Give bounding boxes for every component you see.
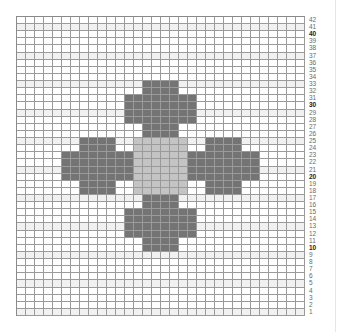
chart-cell	[26, 117, 35, 124]
chart-cell	[35, 280, 44, 287]
chart-cell	[170, 110, 179, 117]
chart-cell	[197, 38, 206, 45]
row-number-labels: 4241403938373635343332313029282726252423…	[309, 16, 333, 315]
chart-cell	[242, 302, 251, 309]
chart-cell	[89, 124, 98, 131]
chart-cell	[224, 67, 233, 74]
chart-cell	[224, 110, 233, 117]
chart-cell	[251, 216, 260, 223]
chart-cell	[98, 53, 107, 60]
chart-cell	[224, 174, 233, 181]
chart-cell	[17, 102, 26, 109]
chart-cell	[125, 74, 134, 81]
chart-cell	[269, 145, 278, 152]
chart-cell	[260, 209, 269, 216]
chart-cell	[125, 288, 134, 295]
chart-cell	[107, 302, 116, 309]
chart-cell	[134, 288, 143, 295]
chart-cell	[26, 259, 35, 266]
chart-cell	[170, 145, 179, 152]
chart-cell	[35, 17, 44, 24]
chart-cell	[26, 24, 35, 31]
chart-cell	[152, 273, 161, 280]
chart-cell	[80, 24, 89, 31]
chart-cell	[242, 110, 251, 117]
chart-cell	[179, 67, 188, 74]
chart-cell	[215, 117, 224, 124]
chart-cell	[152, 110, 161, 117]
chart-cell	[296, 202, 305, 209]
chart-cell	[152, 238, 161, 245]
chart-cell	[35, 216, 44, 223]
chart-cell	[161, 288, 170, 295]
chart-cell	[62, 252, 71, 259]
chart-cell	[116, 110, 125, 117]
chart-cell	[116, 131, 125, 138]
chart-cell	[269, 17, 278, 24]
chart-cell	[80, 266, 89, 273]
chart-cell	[287, 152, 296, 159]
chart-cell	[98, 110, 107, 117]
chart-cell	[296, 302, 305, 309]
chart-cell	[116, 231, 125, 238]
chart-cell	[125, 45, 134, 52]
chart-cell	[161, 202, 170, 209]
chart-cell	[143, 188, 152, 195]
chart-cell	[206, 102, 215, 109]
chart-cell	[287, 280, 296, 287]
chart-cell	[134, 124, 143, 131]
chart-cell	[161, 167, 170, 174]
chart-cell	[197, 209, 206, 216]
chart-cell	[62, 259, 71, 266]
chart-cell	[206, 252, 215, 259]
chart-cell	[53, 216, 62, 223]
chart-cell	[170, 117, 179, 124]
chart-cell	[296, 259, 305, 266]
chart-cell	[53, 145, 62, 152]
chart-cell	[17, 280, 26, 287]
chart-cell	[233, 60, 242, 67]
chart-cell	[80, 167, 89, 174]
row-label: 10	[309, 244, 333, 251]
chart-cell	[278, 181, 287, 188]
chart-cell	[197, 159, 206, 166]
chart-cell	[197, 245, 206, 252]
chart-cell	[116, 81, 125, 88]
chart-cell	[71, 238, 80, 245]
chart-cell	[80, 245, 89, 252]
chart-cell	[179, 24, 188, 31]
chart-cell	[260, 95, 269, 102]
chart-cell	[224, 216, 233, 223]
chart-cell	[98, 181, 107, 188]
chart-cell	[98, 259, 107, 266]
chart-cell	[260, 81, 269, 88]
chart-cell	[98, 17, 107, 24]
chart-cell	[296, 195, 305, 202]
chart-cell	[161, 138, 170, 145]
chart-cell	[89, 53, 98, 60]
chart-cell	[35, 67, 44, 74]
chart-cell	[53, 167, 62, 174]
chart-cell	[215, 81, 224, 88]
chart-cell	[17, 31, 26, 38]
chart-cell	[179, 302, 188, 309]
chart-cell	[296, 295, 305, 302]
chart-cell	[143, 295, 152, 302]
chart-cell	[161, 223, 170, 230]
chart-cell	[89, 38, 98, 45]
chart-cell	[107, 223, 116, 230]
chart-cell	[107, 295, 116, 302]
chart-cell	[215, 38, 224, 45]
chart-cell	[17, 174, 26, 181]
chart-cell	[179, 266, 188, 273]
chart-cell	[296, 159, 305, 166]
chart-cell	[206, 53, 215, 60]
chart-cell	[134, 266, 143, 273]
chart-cell	[44, 231, 53, 238]
chart-cell	[170, 252, 179, 259]
row-label: 40	[309, 30, 333, 37]
chart-cell	[170, 167, 179, 174]
chart-cell	[269, 152, 278, 159]
chart-cell	[179, 131, 188, 138]
chart-cell	[125, 38, 134, 45]
